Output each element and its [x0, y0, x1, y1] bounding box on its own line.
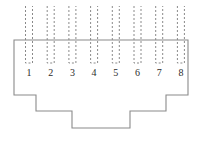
pin-number-group: 1 2 3 4 5 6 7 8: [27, 67, 184, 78]
pin-outline-5: [112, 6, 119, 63]
connector-body-outline: [14, 40, 188, 128]
pin-number-6: 6: [135, 67, 140, 78]
pin-number-4: 4: [92, 67, 97, 78]
connector-outline-svg: 1 2 3 4 5 6 7 8: [0, 0, 202, 143]
pin-outline-6: [134, 6, 141, 63]
pin-outline-7: [156, 6, 163, 63]
pin-outline-8: [177, 6, 184, 63]
pin-number-3: 3: [70, 67, 75, 78]
pin-number-8: 8: [178, 67, 183, 78]
pin-number-2: 2: [48, 67, 53, 78]
pin-number-7: 7: [157, 67, 162, 78]
pin-number-5: 5: [113, 67, 118, 78]
pin-outline-1: [26, 6, 33, 63]
pin-outline-4: [91, 6, 98, 63]
connector-diagram: 1 2 3 4 5 6 7 8: [0, 0, 202, 143]
pin-group: [26, 6, 185, 63]
pin-outline-2: [47, 6, 54, 63]
pin-outline-3: [69, 6, 76, 63]
pin-number-1: 1: [27, 67, 32, 78]
